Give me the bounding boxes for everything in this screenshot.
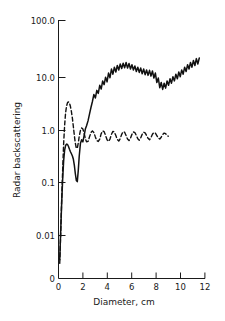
radar-backscattering-chart: 100.0 10.0 1.0 0.1 0.01 0 0 2 4 6 8 10 1… xyxy=(0,0,225,321)
y-tick-label-100: 100.0 xyxy=(31,16,55,26)
y-tick-label-1: 1.0 xyxy=(41,126,55,136)
x-axis-title: Diameter, cm xyxy=(93,297,154,307)
chart-figure: 100.0 10.0 1.0 0.1 0.01 0 0 2 4 6 8 10 1… xyxy=(0,0,225,321)
x-tick-label-4: 4 xyxy=(105,282,110,292)
x-tick-label-8: 8 xyxy=(153,282,158,292)
x-tick-label-12: 12 xyxy=(199,282,210,292)
origin-label-y: 0 xyxy=(50,274,55,284)
y-tick-label-0-1: 0.1 xyxy=(41,178,55,188)
y-tick-label-0-01: 0.01 xyxy=(36,231,55,241)
y-axis-title: Radar backscattering xyxy=(12,102,22,198)
x-tick-label-2: 2 xyxy=(80,282,85,292)
chart-background xyxy=(0,0,225,321)
x-tick-label-10: 10 xyxy=(175,282,186,292)
x-tick-label-6: 6 xyxy=(129,282,134,292)
y-tick-label-10: 10.0 xyxy=(36,73,55,83)
x-tick-label-0: 0 xyxy=(56,282,61,292)
